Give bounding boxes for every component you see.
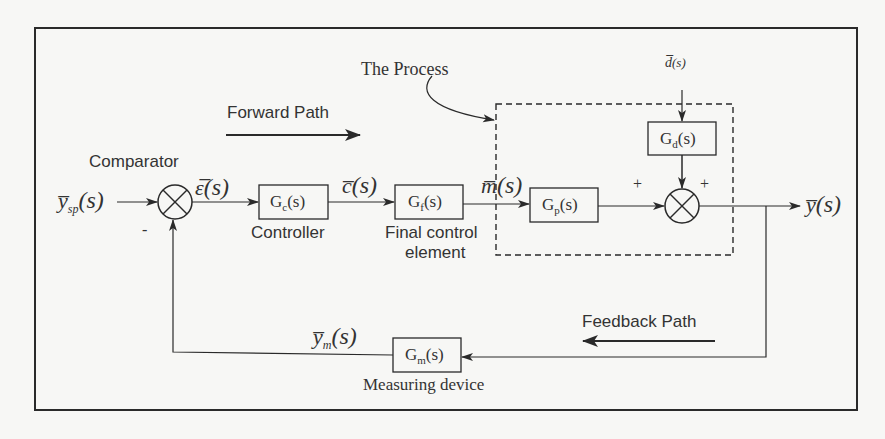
controller-output-signal-label: c̅(s) [342, 173, 377, 197]
setpoint-signal-label: y̅sp(s) [58, 188, 104, 215]
manipulated-signal-label: m̅(s) [481, 173, 522, 197]
output-signal-label: y̅(s) [806, 192, 841, 216]
feedback-branch-line [462, 206, 766, 357]
final-control-label-line2: element [405, 244, 465, 261]
gp-label: Gp(s) [542, 196, 578, 216]
gf-label: Gf(s) [408, 193, 442, 213]
error-signal-label: ε̅(s) [195, 175, 229, 199]
junction-plus-sign-disturbance: + [700, 176, 709, 192]
forward-path-label: Forward Path [227, 104, 329, 121]
disturbance-signal-label: d̅(s) [665, 56, 686, 70]
measuring-device-label: Measuring device [363, 376, 484, 393]
controller-label: Controller [251, 224, 325, 241]
gc-label: Gc(s) [270, 193, 305, 213]
process-pointer-arrow [427, 76, 494, 120]
summing-junction [665, 189, 699, 223]
process-boundary [496, 104, 733, 255]
gd-label: Gd(s) [660, 130, 696, 150]
comparator-junction [158, 185, 192, 219]
feedback-path-label: Feedback Path [582, 313, 696, 330]
measured-signal-label: y̅m(s) [313, 324, 357, 351]
junction-plus-sign-process: + [633, 176, 642, 192]
final-control-label-line1: Final control [385, 224, 478, 241]
gm-label: Gm(s) [405, 346, 444, 366]
comparator-minus-sign: - [142, 222, 147, 238]
process-label: The Process [361, 60, 448, 78]
comparator-label: Comparator [89, 153, 179, 170]
